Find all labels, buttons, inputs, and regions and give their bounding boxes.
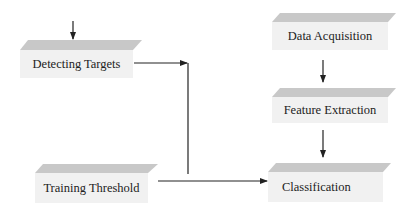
block-top-face: [35, 164, 158, 173]
block-top-face: [20, 40, 142, 50]
node-label: Classification: [268, 172, 383, 202]
node-label: Feature Extraction: [272, 97, 388, 123]
node-detecting-targets: Detecting Targets: [20, 40, 142, 78]
block-top-face: [272, 88, 396, 97]
node-classification: Classification: [268, 163, 391, 202]
block-top-face: [268, 163, 391, 172]
node-training-threshold: Training Threshold: [35, 164, 158, 203]
node-label: Data Acquisition: [272, 22, 388, 50]
node-label: Detecting Targets: [20, 50, 133, 78]
block-top-face: [272, 13, 396, 22]
node-data-acquisition: Data Acquisition: [272, 13, 396, 50]
node-feature-extraction: Feature Extraction: [272, 88, 396, 123]
node-label: Training Threshold: [35, 173, 148, 203]
